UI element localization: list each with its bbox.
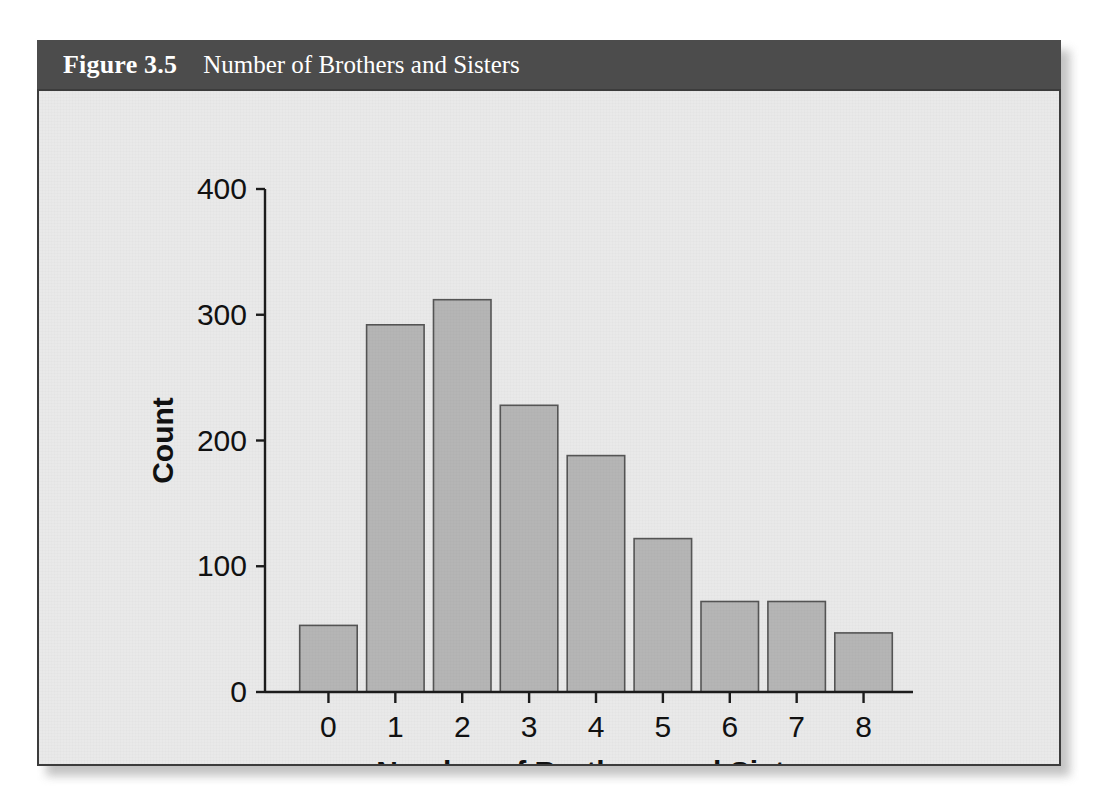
bar-3 bbox=[500, 405, 558, 692]
x-tick-label-5: 5 bbox=[655, 710, 672, 743]
figure-number-label: Figure 3.5 bbox=[63, 50, 177, 80]
figure-caption-text: Number of Brothers and Sisters bbox=[203, 51, 520, 79]
y-tick-label-400: 400 bbox=[197, 172, 247, 205]
bar-4 bbox=[567, 456, 625, 692]
bar-6 bbox=[701, 602, 759, 693]
y-tick-label-0: 0 bbox=[230, 675, 247, 708]
bar-chart: 0100200300400012345678Number of Brothers… bbox=[39, 91, 1061, 766]
x-tick-label-1: 1 bbox=[387, 710, 404, 743]
x-tick-label-8: 8 bbox=[855, 710, 872, 743]
bar-5 bbox=[634, 539, 692, 692]
y-tick-label-200: 200 bbox=[197, 424, 247, 457]
bar-7 bbox=[768, 602, 826, 693]
x-tick-label-2: 2 bbox=[454, 710, 471, 743]
x-tick-label-7: 7 bbox=[788, 710, 805, 743]
bar-1 bbox=[367, 325, 425, 692]
x-axis-title: Number of Brothers and Sisters bbox=[376, 755, 829, 766]
bars-group bbox=[300, 300, 893, 692]
x-tick-label-0: 0 bbox=[320, 710, 337, 743]
y-tick-label-100: 100 bbox=[197, 549, 247, 582]
bar-2 bbox=[434, 300, 492, 692]
x-tick-label-4: 4 bbox=[588, 710, 605, 743]
chart-plot-plate: 0100200300400012345678Number of Brothers… bbox=[37, 89, 1061, 766]
figure-caption-bar: Figure 3.5 Number of Brothers and Sister… bbox=[37, 40, 1061, 89]
y-axis-title: Count bbox=[146, 397, 179, 484]
y-tick-label-300: 300 bbox=[197, 298, 247, 331]
bar-0 bbox=[300, 625, 358, 692]
bar-8 bbox=[835, 633, 893, 692]
x-tick-label-6: 6 bbox=[721, 710, 738, 743]
x-tick-label-3: 3 bbox=[521, 710, 538, 743]
figure-block: Figure 3.5 Number of Brothers and Sister… bbox=[37, 40, 1061, 766]
